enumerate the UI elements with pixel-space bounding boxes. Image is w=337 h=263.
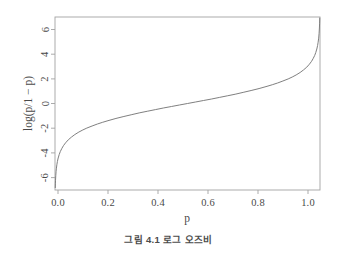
x-tick-label-4: 0.8 [251,197,265,208]
x-tick-label-0: 0.0 [51,197,65,208]
y-tick-label-m4: -4 [40,148,51,158]
y-tick-label-6: 6 [40,27,51,32]
y-tick-label-m6: -6 [40,173,51,182]
y-axis-tick-labels: 6 4 2 0 -2 -4 -6 [40,27,51,182]
y-axis-title: log(p/1 − p) [22,76,35,131]
figure-container: 0.0 0.2 0.4 0.6 0.8 1.0 p 6 4 2 0 -2 -4 [0,0,337,263]
y-tick-label-0: 0 [40,101,51,106]
x-tick-label-5: 1.0 [301,197,315,208]
x-axis-tick-labels: 0.0 0.2 0.4 0.6 0.8 1.0 [51,197,315,208]
x-tick-label-3: 0.6 [201,197,215,208]
y-axis-ticks [51,30,55,178]
y-tick-label-2: 2 [40,76,51,81]
x-tick-label-1: 0.2 [101,197,115,208]
x-axis-title: p [184,212,190,225]
figure-caption: 그림 4.1 로그 오즈비 [0,232,337,246]
x-tick-label-2: 0.4 [151,197,165,208]
x-axis-ticks [58,190,308,194]
y-tick-label-4: 4 [40,51,51,57]
y-tick-label-m2: -2 [40,124,51,133]
logit-plot: 0.0 0.2 0.4 0.6 0.8 1.0 p 6 4 2 0 -2 -4 [0,0,337,263]
